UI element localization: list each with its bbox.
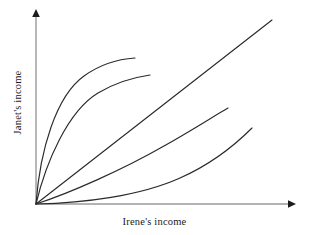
chart-container: Irene's income Janet's income (0, 0, 309, 235)
chart-plot-area (0, 0, 309, 235)
curve-3-linear-45deg (36, 20, 272, 204)
x-axis-arrowhead-icon (288, 200, 296, 208)
y-axis-label-wrapper: Janet's income (0, 0, 36, 204)
x-axis-label: Irene's income (0, 216, 309, 227)
y-axis-label: Janet's income (13, 70, 24, 134)
curve-1-most-concave (36, 58, 135, 204)
curve-2-concave (36, 75, 150, 204)
curve-4-convex (36, 108, 228, 204)
